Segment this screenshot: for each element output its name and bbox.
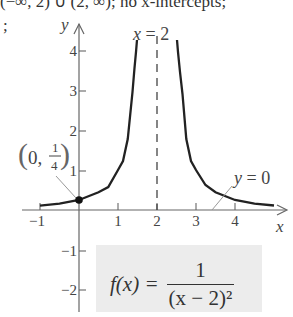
svg-text:3: 3 xyxy=(70,83,78,99)
svg-text:1: 1 xyxy=(70,163,78,179)
svg-text:−1: −1 xyxy=(29,213,45,229)
curve-left-branch xyxy=(40,40,137,206)
horizontal-asymptote-label: y = 0 xyxy=(232,168,270,188)
x-axis-label: x xyxy=(275,217,284,236)
vertical-asymptote-label: x = 2 xyxy=(132,24,169,44)
svg-text:2: 2 xyxy=(153,213,161,229)
x-ticks xyxy=(40,203,235,210)
svg-text:(: ( xyxy=(18,137,28,171)
svg-text:0,: 0, xyxy=(28,147,42,168)
formula-numerator: 1 xyxy=(195,258,206,284)
y-ticks xyxy=(79,51,86,290)
y-intercept-point xyxy=(75,196,83,204)
formula-fraction: 1 (x − 2)² xyxy=(167,258,235,311)
formula-denominator: (x − 2)² xyxy=(167,284,235,311)
svg-text:−1: −1 xyxy=(61,243,77,259)
point-leader-line xyxy=(56,176,76,198)
svg-text:3: 3 xyxy=(192,213,200,229)
svg-text:−2: −2 xyxy=(61,282,77,298)
function-formula: f(x) = 1 (x − 2)² xyxy=(110,258,234,311)
svg-text:4: 4 xyxy=(51,158,58,173)
formula-lhs: f(x) = xyxy=(110,272,159,297)
svg-text:): ) xyxy=(60,137,70,171)
y-axis-label: y xyxy=(59,15,69,34)
svg-text:1: 1 xyxy=(52,140,59,155)
svg-text:2: 2 xyxy=(70,123,78,139)
point-label: ( 0, 1 4 ) xyxy=(18,137,70,173)
svg-text:4: 4 xyxy=(70,43,78,59)
svg-text:4: 4 xyxy=(231,213,239,229)
svg-text:1: 1 xyxy=(114,213,122,229)
x-tick-labels: −1 1 2 3 4 xyxy=(29,213,239,229)
y-tick-labels: 4 3 2 1 −1 −2 xyxy=(61,43,77,298)
